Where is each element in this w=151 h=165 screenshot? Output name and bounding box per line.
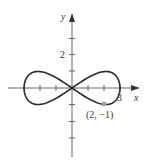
y-axis-arrow-icon xyxy=(69,13,75,22)
figure-eight-graph: y x 2 3 (2, −1) xyxy=(0,0,151,165)
point-label: (2, −1) xyxy=(86,109,113,121)
x-axis-arrow-icon xyxy=(131,85,140,91)
y-axis-label: y xyxy=(60,11,66,22)
marked-point xyxy=(102,102,107,107)
y-tick-label-2: 2 xyxy=(60,49,65,60)
x-axis-label: x xyxy=(133,92,139,103)
x-tick-label-3: 3 xyxy=(117,92,122,103)
